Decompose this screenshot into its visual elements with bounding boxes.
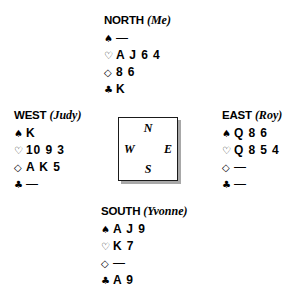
hand-east-clubs-cards: —: [234, 176, 246, 193]
club-icon: ♣: [14, 176, 26, 193]
hand-west-seat: WEST: [14, 109, 46, 121]
club-icon: ♣: [222, 176, 234, 193]
spade-icon: ♠: [101, 221, 113, 238]
diamond-icon: ◇: [14, 159, 26, 176]
hand-west-clubs-row: ♣ —: [14, 176, 81, 193]
hand-south-label: SOUTH(Yvonne): [101, 205, 188, 218]
hand-east: EAST(Roy) ♠ Q 8 6 ♡ Q 8 5 4 ◇ — ♣ —: [222, 109, 282, 193]
club-icon: ♣: [101, 272, 113, 289]
bridge-hand-diagram: NORTH(Me) ♠ — ♡ A J 6 4 ◇ 8 6 ♣ K WEST(J…: [0, 0, 303, 300]
hand-west-hearts-row: ♡ 10 9 3: [14, 142, 81, 159]
hand-north-hearts-cards: A J 6 4: [116, 47, 161, 64]
hand-north-diamonds-row: ◇ 8 6: [104, 64, 171, 81]
hand-south: SOUTH(Yvonne) ♠ A J 9 ♡ K 7 ◇ — ♣ A 9: [101, 205, 188, 289]
hand-east-diamonds-cards: —: [234, 159, 246, 176]
heart-icon: ♡: [14, 142, 26, 159]
diamond-icon: ◇: [101, 255, 113, 272]
hand-west-clubs-cards: —: [26, 176, 38, 193]
hand-south-hearts-row: ♡ K 7: [101, 238, 188, 255]
hand-south-clubs-cards: A 9: [113, 272, 134, 289]
hand-east-player: (Roy): [255, 108, 282, 122]
hand-north-clubs-row: ♣ K: [104, 81, 171, 98]
hand-south-seat: SOUTH: [101, 205, 140, 217]
compass-south-label: S: [119, 162, 177, 177]
hand-south-diamonds-row: ◇ —: [101, 255, 188, 272]
hand-east-diamonds-row: ◇ —: [222, 159, 282, 176]
hand-east-seat: EAST: [222, 109, 252, 121]
compass-west-label: W: [124, 142, 135, 157]
compass-box: N W E S: [118, 117, 178, 181]
hand-north-diamonds-cards: 8 6: [116, 64, 135, 81]
hand-north-clubs-cards: K: [116, 81, 126, 98]
spade-icon: ♠: [222, 125, 234, 142]
hand-east-spades-row: ♠ Q 8 6: [222, 125, 282, 142]
heart-icon: ♡: [222, 142, 234, 159]
hand-north-label: NORTH(Me): [104, 14, 171, 27]
heart-icon: ♡: [104, 47, 116, 64]
hand-west-hearts-cards: 10 9 3: [26, 142, 65, 159]
hand-north-hearts-row: ♡ A J 6 4: [104, 47, 171, 64]
hand-south-spades-cards: A J 9: [113, 221, 146, 238]
heart-icon: ♡: [101, 238, 113, 255]
hand-north-spades-cards: —: [116, 30, 128, 47]
hand-south-clubs-row: ♣ A 9: [101, 272, 188, 289]
hand-east-label: EAST(Roy): [222, 109, 282, 122]
compass-north-label: N: [119, 121, 177, 136]
hand-east-hearts-row: ♡ Q 8 5 4: [222, 142, 282, 159]
hand-west-label: WEST(Judy): [14, 109, 81, 122]
club-icon: ♣: [104, 81, 116, 98]
hand-south-spades-row: ♠ A J 9: [101, 221, 188, 238]
hand-south-player: (Yvonne): [143, 204, 187, 218]
hand-south-diamonds-cards: —: [113, 255, 125, 272]
hand-north: NORTH(Me) ♠ — ♡ A J 6 4 ◇ 8 6 ♣ K: [104, 14, 171, 98]
hand-east-hearts-cards: Q 8 5 4: [234, 142, 280, 159]
spade-icon: ♠: [14, 125, 26, 142]
spade-icon: ♠: [104, 30, 116, 47]
hand-north-player: (Me): [147, 13, 171, 27]
hand-north-spades-row: ♠ —: [104, 30, 171, 47]
compass-east-label: E: [164, 142, 172, 157]
hand-east-clubs-row: ♣ —: [222, 176, 282, 193]
hand-west-spades-row: ♠ K: [14, 125, 81, 142]
hand-south-hearts-cards: K 7: [113, 238, 134, 255]
hand-west-player: (Judy): [49, 108, 81, 122]
hand-west: WEST(Judy) ♠ K ♡ 10 9 3 ◇ A K 5 ♣ —: [14, 109, 81, 193]
hand-west-diamonds-cards: A K 5: [26, 159, 61, 176]
diamond-icon: ◇: [222, 159, 234, 176]
hand-west-spades-cards: K: [26, 125, 36, 142]
hand-north-seat: NORTH: [104, 14, 144, 26]
hand-west-diamonds-row: ◇ A K 5: [14, 159, 81, 176]
diamond-icon: ◇: [104, 64, 116, 81]
hand-east-spades-cards: Q 8 6: [234, 125, 268, 142]
